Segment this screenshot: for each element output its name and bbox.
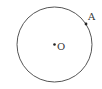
point-o-dot [53, 43, 56, 46]
point-a-label: A [87, 11, 96, 22]
point-a-dot [85, 23, 88, 26]
diagram-canvas: O A [0, 0, 102, 89]
point-o-label: O [57, 41, 65, 52]
